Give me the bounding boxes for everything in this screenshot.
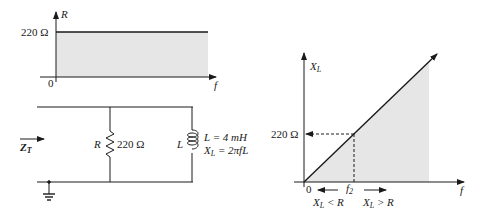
region-below-label: XL < R [313, 197, 344, 210]
input-impedance-label: ZT [20, 142, 32, 155]
top-origin-label: 0 [48, 78, 54, 89]
diagram-canvas [0, 0, 484, 214]
resistance-level-label: 220 Ω [21, 27, 48, 38]
r-axis-label: R [61, 9, 68, 20]
inductor-reactance-formula: XL = 2πfL [204, 145, 248, 158]
resistor-name: R [94, 139, 101, 150]
resistance-vs-frequency-plot [40, 12, 216, 82]
parallel-rl-circuit [37, 107, 198, 200]
crossover-frequency-label: f2 [346, 183, 353, 196]
xl-axis-label: XL [310, 61, 321, 74]
reactance-level-label: 220 Ω [271, 129, 298, 140]
inductor-value: L = 4 mH [204, 132, 247, 143]
inductor-coil-icon [188, 130, 199, 149]
resistor-value: 220 Ω [117, 139, 144, 150]
right-f-axis-label: f [460, 185, 463, 196]
resistance-shaded-area [56, 32, 208, 77]
region-above-label: XL > R [363, 197, 394, 210]
resistor-icon [106, 131, 114, 157]
right-origin-label: 0 [306, 184, 312, 195]
inductor-name: L [177, 139, 183, 150]
top-f-axis-label: f [214, 80, 217, 91]
